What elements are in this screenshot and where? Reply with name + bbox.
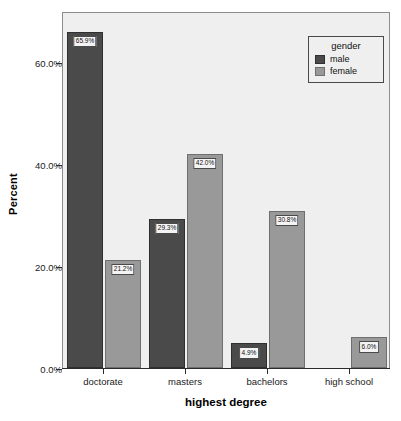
legend: gender malefemale xyxy=(308,36,384,83)
bar-value-label: 6.0% xyxy=(359,341,379,353)
bar-value-label: 42.0% xyxy=(193,158,216,170)
x-axis-title: highest degree xyxy=(62,396,390,408)
bar-masters-female[interactable]: 42.0% xyxy=(187,154,223,368)
bar-masters-male[interactable]: 29.3% xyxy=(149,219,185,368)
bar-bachelors-female[interactable]: 30.8% xyxy=(269,211,305,368)
bar-high-school-female[interactable]: 6.0% xyxy=(351,337,387,368)
x-tick-mark xyxy=(103,369,104,374)
bar-value-label: 65.9% xyxy=(73,36,96,48)
x-tick-label-masters: masters xyxy=(139,376,231,387)
bar-chart: Percent 0.0%20.0%40.0%60.0% 65.9%21.2%29… xyxy=(0,0,401,421)
legend-title: gender xyxy=(313,40,379,51)
x-tick-mark xyxy=(349,369,350,374)
y-tick-mark xyxy=(56,369,62,370)
legend-item-female[interactable]: female xyxy=(315,66,379,76)
bar-value-label: 4.9% xyxy=(239,347,259,359)
x-axis-line xyxy=(62,368,390,369)
x-tick-label-doctorate: doctorate xyxy=(57,376,149,387)
x-tick-mark xyxy=(185,369,186,374)
x-tick-mark xyxy=(267,369,268,374)
bar-value-label: 29.3% xyxy=(155,223,178,235)
bar-value-label: 30.8% xyxy=(275,215,298,227)
x-tick-label-high-school: high school xyxy=(303,376,395,387)
bar-doctorate-female[interactable]: 21.2% xyxy=(105,260,141,368)
bar-doctorate-male[interactable]: 65.9% xyxy=(67,32,103,368)
legend-entries: malefemale xyxy=(313,54,379,76)
legend-label: male xyxy=(330,54,350,64)
bar-value-label: 21.2% xyxy=(111,264,134,276)
legend-swatch-male-icon xyxy=(315,55,325,64)
x-tick-label-bachelors: bachelors xyxy=(221,376,313,387)
legend-item-male[interactable]: male xyxy=(315,54,379,64)
legend-swatch-female-icon xyxy=(315,67,325,76)
legend-label: female xyxy=(330,66,357,76)
bar-bachelors-male[interactable]: 4.9% xyxy=(231,343,267,368)
y-axis-ticks: 0.0%20.0%40.0%60.0% xyxy=(6,0,62,421)
